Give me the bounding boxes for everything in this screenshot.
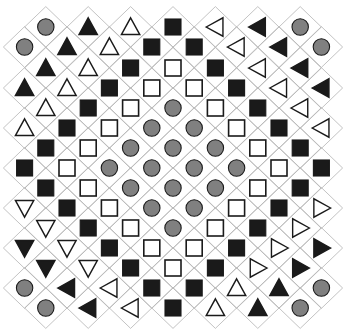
lattice-shape-gray-circle: [207, 140, 223, 156]
lattice-shape-black-square: [207, 60, 223, 76]
lattice-shape-white-square: [123, 100, 139, 116]
lattice-shape-white-square: [101, 120, 117, 136]
lattice-shape-black-square: [313, 160, 329, 176]
lattice-shape-gray-circle: [165, 180, 181, 196]
lattice-shape-white-square: [165, 60, 181, 76]
lattice-shape-white-square: [123, 220, 139, 236]
lattice-shape-black-square: [165, 19, 181, 35]
lattice-shape-black-square: [80, 100, 96, 116]
lattice-shape-black-square: [59, 120, 75, 136]
lattice-shape-white-square: [80, 140, 96, 156]
lattice-shape-white-square: [229, 120, 245, 136]
lattice-shape-gray-circle: [313, 39, 329, 55]
lattice-shape-gray-circle: [122, 140, 138, 156]
lattice-shape-black-square: [250, 220, 266, 236]
lattice-shape-white-square: [186, 80, 202, 96]
lattice-canvas: [0, 0, 346, 332]
lattice-shape-black-square: [38, 180, 54, 196]
lattice-shape-white-square: [144, 240, 160, 256]
lattice-shape-gray-circle: [186, 120, 202, 136]
lattice-shape-black-square: [186, 39, 202, 55]
lattice-shape-white-square: [80, 180, 96, 196]
lattice-shape-gray-circle: [165, 220, 181, 236]
lattice-shape-white-square: [101, 200, 117, 216]
lattice-shape-black-square: [207, 260, 223, 276]
lattice-shape-gray-circle: [16, 39, 32, 55]
lattice-shape-gray-circle: [38, 300, 54, 316]
lattice-shape-gray-circle: [292, 300, 308, 316]
lattice-shape-black-square: [59, 200, 75, 216]
lattice-shape-white-square: [207, 220, 223, 236]
lattice-shape-black-square: [165, 300, 181, 316]
lattice-shape-white-square: [207, 100, 223, 116]
lattice-shape-black-square: [229, 80, 245, 96]
lattice-shape-black-square: [123, 60, 139, 76]
lattice-shape-black-square: [17, 160, 33, 176]
lattice-shape-white-square: [250, 140, 266, 156]
lattice-shape-gray-circle: [16, 280, 32, 296]
shape-lattice-figure: [0, 0, 346, 332]
lattice-shape-white-square: [165, 260, 181, 276]
lattice-shape-gray-circle: [122, 180, 138, 196]
lattice-shape-gray-circle: [186, 160, 202, 176]
lattice-shape-gray-circle: [165, 140, 181, 156]
lattice-shape-gray-circle: [186, 200, 202, 216]
lattice-shape-gray-circle: [101, 160, 117, 176]
lattice-shape-gray-circle: [207, 180, 223, 196]
lattice-shape-black-square: [250, 100, 266, 116]
lattice-shape-black-square: [292, 140, 308, 156]
lattice-shape-white-square: [250, 180, 266, 196]
lattice-shape-white-square: [271, 160, 287, 176]
lattice-shape-white-square: [186, 240, 202, 256]
lattice-shape-gray-circle: [313, 280, 329, 296]
lattice-shape-black-square: [101, 240, 117, 256]
lattice-shape-gray-circle: [38, 19, 54, 35]
lattice-shape-black-square: [229, 240, 245, 256]
lattice-shape-black-square: [144, 39, 160, 55]
lattice-shape-gray-circle: [165, 100, 181, 116]
lattice-shape-black-square: [80, 220, 96, 236]
lattice-shape-black-square: [38, 140, 54, 156]
lattice-shape-black-square: [271, 200, 287, 216]
lattice-shape-gray-circle: [144, 120, 160, 136]
lattice-shape-black-square: [101, 80, 117, 96]
lattice-shape-white-square: [59, 160, 75, 176]
lattice-shape-white-square: [144, 80, 160, 96]
lattice-shape-gray-circle: [292, 19, 308, 35]
lattice-shape-white-square: [229, 200, 245, 216]
lattice-shape-black-square: [123, 260, 139, 276]
lattice-shape-black-square: [271, 120, 287, 136]
lattice-shape-gray-circle: [228, 160, 244, 176]
lattice-shape-gray-circle: [144, 160, 160, 176]
lattice-shape-black-square: [186, 280, 202, 296]
lattice-shape-black-square: [144, 280, 160, 296]
lattice-shape-gray-circle: [144, 200, 160, 216]
lattice-shape-black-square: [292, 180, 308, 196]
